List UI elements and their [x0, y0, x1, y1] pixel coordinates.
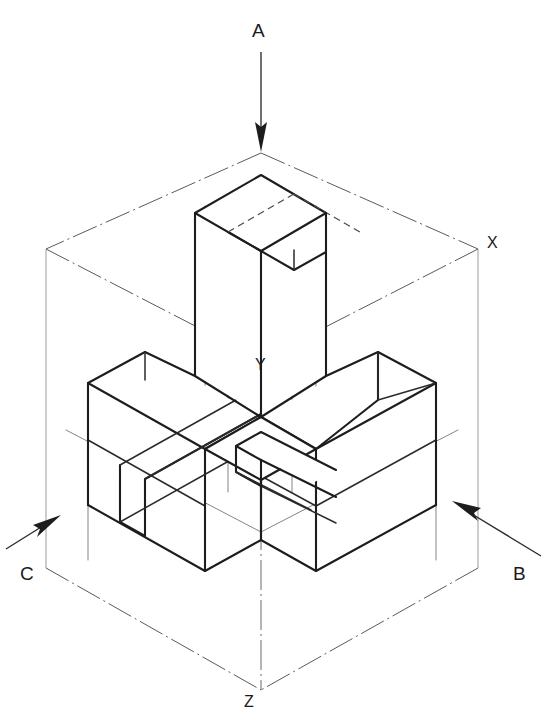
- arrow-c-head: [33, 515, 61, 537]
- arrow-a-label: A: [252, 20, 265, 41]
- corner-label-y: Y: [255, 356, 266, 373]
- view-arrow-b: B: [452, 501, 541, 584]
- view-arrow-c: C: [6, 515, 61, 584]
- box-bottom-edge-left: [46, 568, 261, 690]
- box-bottom-edge-right: [261, 568, 478, 690]
- view-arrow-a: A: [252, 20, 267, 152]
- corner-label-x: X: [487, 234, 498, 251]
- arrow-b-label: B: [513, 563, 526, 584]
- corner-label-z: Z: [244, 693, 254, 710]
- arrow-b-head: [452, 501, 481, 521]
- left-arm-bottom-edge-right: [205, 540, 261, 571]
- arrow-c-label: C: [20, 563, 34, 584]
- right-arm-bottom-edge-left: [261, 540, 316, 571]
- isometric-drawing-canvas: A B C X Y Z: [0, 0, 553, 727]
- isometric-drawing-svg: A B C X Y Z: [0, 0, 553, 727]
